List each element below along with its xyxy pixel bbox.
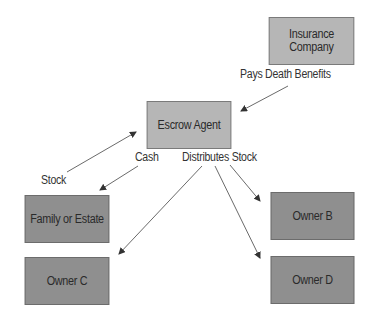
node-escrow-agent: Escrow Agent: [147, 101, 232, 149]
arrow-to-owner-d: [215, 166, 260, 258]
node-label: Family or Estate: [30, 213, 104, 226]
node-insurance-company: Insurance Company: [269, 17, 355, 65]
edge-label-pays-death-benefits: Pays Death Benefits: [240, 68, 331, 81]
arrow-to-owner-b: [230, 165, 260, 201]
node-label: Owner B: [292, 210, 332, 223]
arrow-to-owner-c: [119, 166, 202, 254]
arrow-pays-death-benefits: [241, 86, 288, 111]
arrow-cash: [100, 166, 138, 190]
node-owner-b: Owner B: [271, 192, 355, 240]
node-family-or-estate: Family or Estate: [25, 195, 110, 243]
node-owner-c: Owner C: [25, 257, 110, 305]
edge-label-distributes-stock: Distributes Stock: [182, 151, 257, 164]
node-label: Owner C: [47, 275, 88, 288]
edge-label-cash: Cash: [135, 151, 159, 164]
edge-label-stock: Stock: [41, 174, 66, 187]
node-label: Owner D: [292, 274, 333, 287]
arrow-stock: [67, 132, 136, 172]
node-owner-d: Owner D: [271, 256, 355, 304]
node-label-line2: Company: [289, 41, 333, 54]
node-label: Escrow Agent: [158, 119, 221, 132]
